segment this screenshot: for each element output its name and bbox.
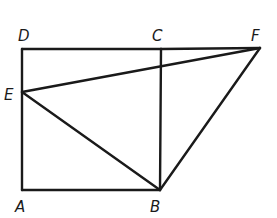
segment-CF — [161, 48, 260, 49]
label-point-c: C — [152, 27, 163, 45]
segment-BC — [160, 49, 161, 190]
segment-EB — [22, 92, 160, 190]
label-point-f: F — [251, 27, 260, 45]
segment-BF — [160, 48, 260, 190]
label-point-b: B — [150, 198, 160, 216]
label-point-d: D — [18, 27, 30, 45]
geometry-diagram: A B C D E F — [0, 0, 277, 218]
segments-group — [22, 48, 260, 190]
segment-EF — [22, 48, 260, 92]
label-point-e: E — [4, 86, 14, 104]
label-point-a: A — [14, 198, 25, 216]
